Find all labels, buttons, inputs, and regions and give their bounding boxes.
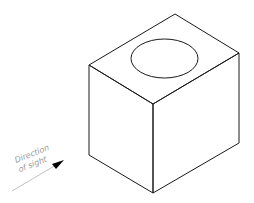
top-face <box>89 14 239 104</box>
arrow-head-icon <box>52 160 64 169</box>
left-face <box>89 65 153 193</box>
isometric-drawing: Direction of sight <box>0 0 254 203</box>
block <box>89 14 239 193</box>
circular-hole <box>131 39 198 78</box>
direction-of-sight-annotation: Direction of sight <box>12 143 64 191</box>
right-face <box>153 53 239 193</box>
